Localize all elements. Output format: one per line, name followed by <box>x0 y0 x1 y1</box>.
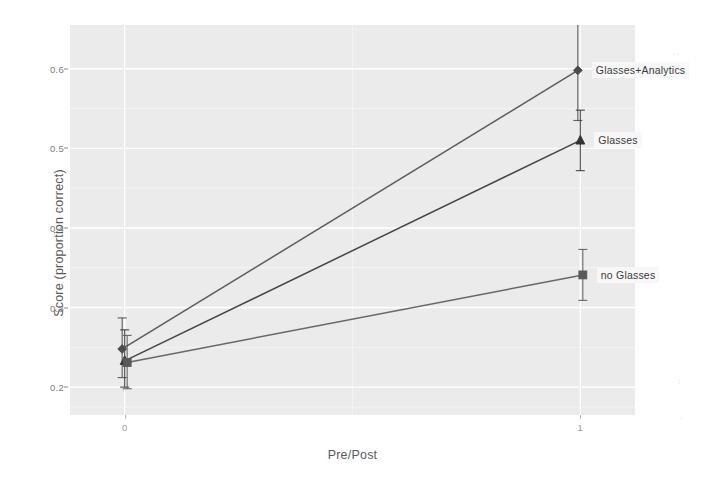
x-tick-label: 1 <box>560 422 600 433</box>
y-tick-mark <box>64 148 68 149</box>
y-tick-mark <box>64 68 68 69</box>
y-tick-label: 0.2 <box>30 382 64 393</box>
scan-artifact: · <box>680 414 683 423</box>
data-point-marker <box>576 135 585 144</box>
series-label-glasses: Glasses <box>594 132 641 148</box>
data-point-marker <box>579 271 587 279</box>
x-axis-title: Pre/Post <box>70 448 635 462</box>
y-tick-mark <box>64 387 68 388</box>
y-axis-ticks: 0.20.30.40.50.6 <box>26 0 64 486</box>
y-tick-label: 0.5 <box>30 143 64 154</box>
y-tick-mark <box>64 227 68 228</box>
y-tick-label: 0.4 <box>30 222 64 233</box>
chart-figure: Score (proportion correct) 0.20.30.40.50… <box>0 0 702 486</box>
plot-svg <box>70 25 635 415</box>
x-tick-label: 0 <box>105 422 145 433</box>
plot-panel <box>70 25 635 415</box>
x-tick-mark <box>125 415 126 419</box>
scan-artifact: ⁖ <box>676 378 681 387</box>
data-point-marker <box>123 359 131 367</box>
series-label-glasses-analytics: Glasses+Analytics <box>592 62 689 78</box>
scan-artifact: · · <box>672 50 680 59</box>
y-tick-mark <box>64 307 68 308</box>
x-tick-mark <box>580 415 581 419</box>
scan-artifact: ⁖ <box>668 74 673 83</box>
y-tick-label: 0.6 <box>30 63 64 74</box>
y-tick-label: 0.3 <box>30 302 64 313</box>
series-label-no-glasses: no Glasses <box>597 267 660 283</box>
